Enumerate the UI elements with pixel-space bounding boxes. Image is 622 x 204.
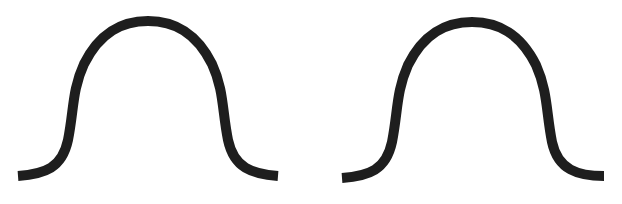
bell-curve-left (18, 21, 278, 176)
bell-curve-right (342, 22, 604, 178)
bell-curves-diagram (0, 0, 622, 204)
figure-canvas (0, 0, 622, 204)
